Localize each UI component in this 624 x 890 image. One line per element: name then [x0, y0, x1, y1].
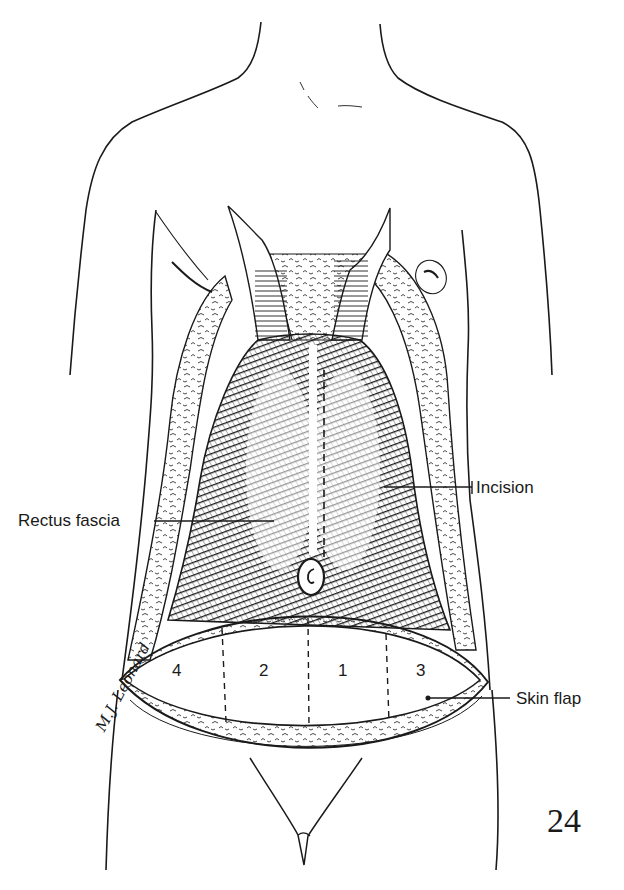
- zone-3-label: 3: [416, 662, 425, 679]
- incision-label: Incision: [476, 479, 534, 496]
- zone-1-label: 1: [338, 662, 347, 679]
- zone-4-label: 4: [172, 662, 181, 679]
- rectus-fascia-label: Rectus fascia: [18, 512, 120, 529]
- umbilicus-icon: [298, 559, 324, 595]
- skin-flap-label: Skin flap: [516, 690, 581, 707]
- surgical-illustration: [0, 0, 624, 890]
- zone-2-label: 2: [259, 662, 268, 679]
- skin-flap-area: [120, 616, 488, 747]
- figure-number: 24: [547, 804, 581, 838]
